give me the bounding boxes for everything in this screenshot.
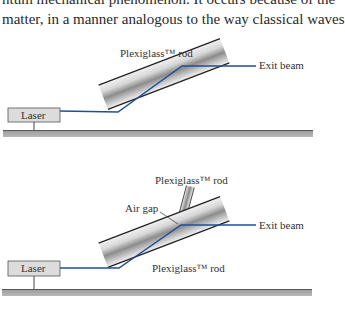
exit-beam-label: Exit beam (259, 59, 304, 71)
figure-bottom: Plexiglass™ rod Air gap Laser Exit beam … (2, 174, 312, 296)
lower-rod-label: Plexiglass™ rod (152, 262, 225, 274)
upper-rod-label: Plexiglass™ rod (155, 174, 228, 186)
lower-plexiglass-rod (99, 197, 230, 268)
laser-label: Laser (21, 109, 46, 121)
rod-label: Plexiglass™ rod (120, 47, 193, 59)
laser-label: Laser (21, 262, 46, 274)
air-gap-label: Air gap (125, 202, 159, 214)
ground-bar (3, 130, 313, 137)
ground-bar (2, 289, 312, 296)
figure-top: Plexiglass™ rod Laser Exit beam (3, 39, 313, 137)
exit-beam-label: Exit beam (259, 219, 304, 231)
